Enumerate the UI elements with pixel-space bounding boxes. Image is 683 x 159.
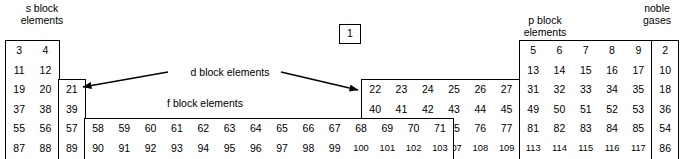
element-row: 18 [652,80,678,100]
noble-gas-cell: 86 [652,139,678,159]
p-block-cell: 81 [520,119,546,139]
d-block-cell: 45 [493,100,519,120]
element-row: 86 [652,139,678,159]
f-block-cell: 68 [348,119,374,139]
element-row: 54 [652,119,678,139]
s-block-cell: 3 [6,41,32,61]
d-block-cell: 108 [467,139,493,159]
f-block-cell: 64 [243,119,269,139]
f-block-cell: 58 [85,119,111,139]
d-block-cell: 27 [493,80,519,100]
element-row: 10 [652,61,678,81]
f-block-cell: 71 [427,119,453,139]
f-block-cell: 62 [190,119,216,139]
s-block-cell: 4 [32,41,58,61]
p-block-cell: 84 [599,119,625,139]
noble-gases-label: noble gases [634,2,680,27]
f-block-cell: 59 [111,119,137,139]
p-block-cell: 82 [546,119,572,139]
f-block-cell: 99 [322,139,348,159]
f-block-grid: 5859606162636465666768697071909192939495… [84,118,454,159]
p-block-cell: 34 [599,80,625,100]
p-block-cell: 6 [546,41,572,61]
element-row: 113114115116117 [520,139,651,159]
s-block-cell: 20 [32,80,58,100]
noble-gas-cell: 2 [652,41,678,61]
p-block-cell: 7 [573,41,599,61]
noble-gas-cell: 54 [652,119,678,139]
s-block-cell: 88 [32,139,58,159]
f-block-cell: 97 [269,139,295,159]
d-block-cell: 22 [362,80,388,100]
p-block-cell: 14 [546,61,572,81]
element-row: 90919293949596979899100101102103 [85,139,453,159]
p-block-cell: 117 [625,139,651,159]
element-row: 39 [59,100,85,120]
p-block-cell: 5 [520,41,546,61]
hydrogen-cell: 1 [339,24,361,44]
p-block-cell: 85 [625,119,651,139]
f-block-cell: 70 [400,119,426,139]
group-3-cell: 89 [59,139,85,159]
s-block-grid: 3411121920373855568788 [5,40,60,159]
p-block-cell: 32 [546,80,572,100]
f-block-cell: 61 [164,119,190,139]
p-block-cell: 83 [573,119,599,139]
noble-gas-column: 21018365486118 [651,40,679,159]
f-block-cell: 98 [295,139,321,159]
element-row: 1112 [6,61,59,81]
p-block-cell: 35 [625,80,651,100]
s-block-cell: 12 [32,61,58,81]
element-row: 3738 [6,100,59,120]
f-block-cell: 66 [295,119,321,139]
p-block-grid: 5678913141516173132333435495051525381828… [519,40,652,159]
p-block-cell: 113 [520,139,546,159]
p-block-cell: 52 [599,100,625,120]
d-block-cell: 76 [467,119,493,139]
d-block-arrow-left [83,72,168,87]
d-block-cell: 23 [388,80,414,100]
f-block-cell: 93 [164,139,190,159]
element-row: 5556 [6,119,59,139]
s-block-cell: 19 [6,80,32,100]
f-block-cell: 103 [427,139,453,159]
element-row: 57 [59,119,85,139]
f-block-label: f block elements [145,97,265,109]
d-block-cell: 109 [493,139,519,159]
s-block-cell: 56 [32,119,58,139]
element-row: 1314151617 [520,61,651,81]
noble-gas-cell: 10 [652,61,678,81]
p-block-cell: 116 [599,139,625,159]
group-3-cell: 57 [59,119,85,139]
f-block-cell: 94 [190,139,216,159]
s-block-cell: 38 [32,100,58,120]
p-block-cell: 51 [573,100,599,120]
p-block-cell: 9 [625,41,651,61]
element-row: 1920 [6,80,59,100]
noble-gas-cell: 36 [652,100,678,120]
f-block-cell: 63 [216,119,242,139]
group-3-cell: 21 [59,80,85,100]
noble-gas-cell: 18 [652,80,678,100]
p-block-cell: 115 [573,139,599,159]
d-block-cell: 25 [441,80,467,100]
element-row: 21 [59,80,85,100]
p-block-cell: 8 [599,41,625,61]
element-row: 34 [6,41,59,61]
p-block-cell: 50 [546,100,572,120]
element-row: 8788 [6,139,59,159]
element-row: 4950515253 [520,100,651,120]
f-block-cell: 90 [85,139,111,159]
p-block-cell: 53 [625,100,651,120]
d-block-cell: 44 [467,100,493,120]
f-block-cell: 60 [137,119,163,139]
d-block-cell: 43 [441,100,467,120]
periodic-table-block-diagram: s block elements p block elements noble … [0,0,683,159]
element-row: 56789 [520,41,651,61]
f-block-cell: 91 [111,139,137,159]
p-block-cell: 33 [573,80,599,100]
f-block-cell: 67 [322,119,348,139]
d-block-arrow-right [281,72,358,90]
s-block-cell: 55 [6,119,32,139]
element-row: 89 [59,139,85,159]
